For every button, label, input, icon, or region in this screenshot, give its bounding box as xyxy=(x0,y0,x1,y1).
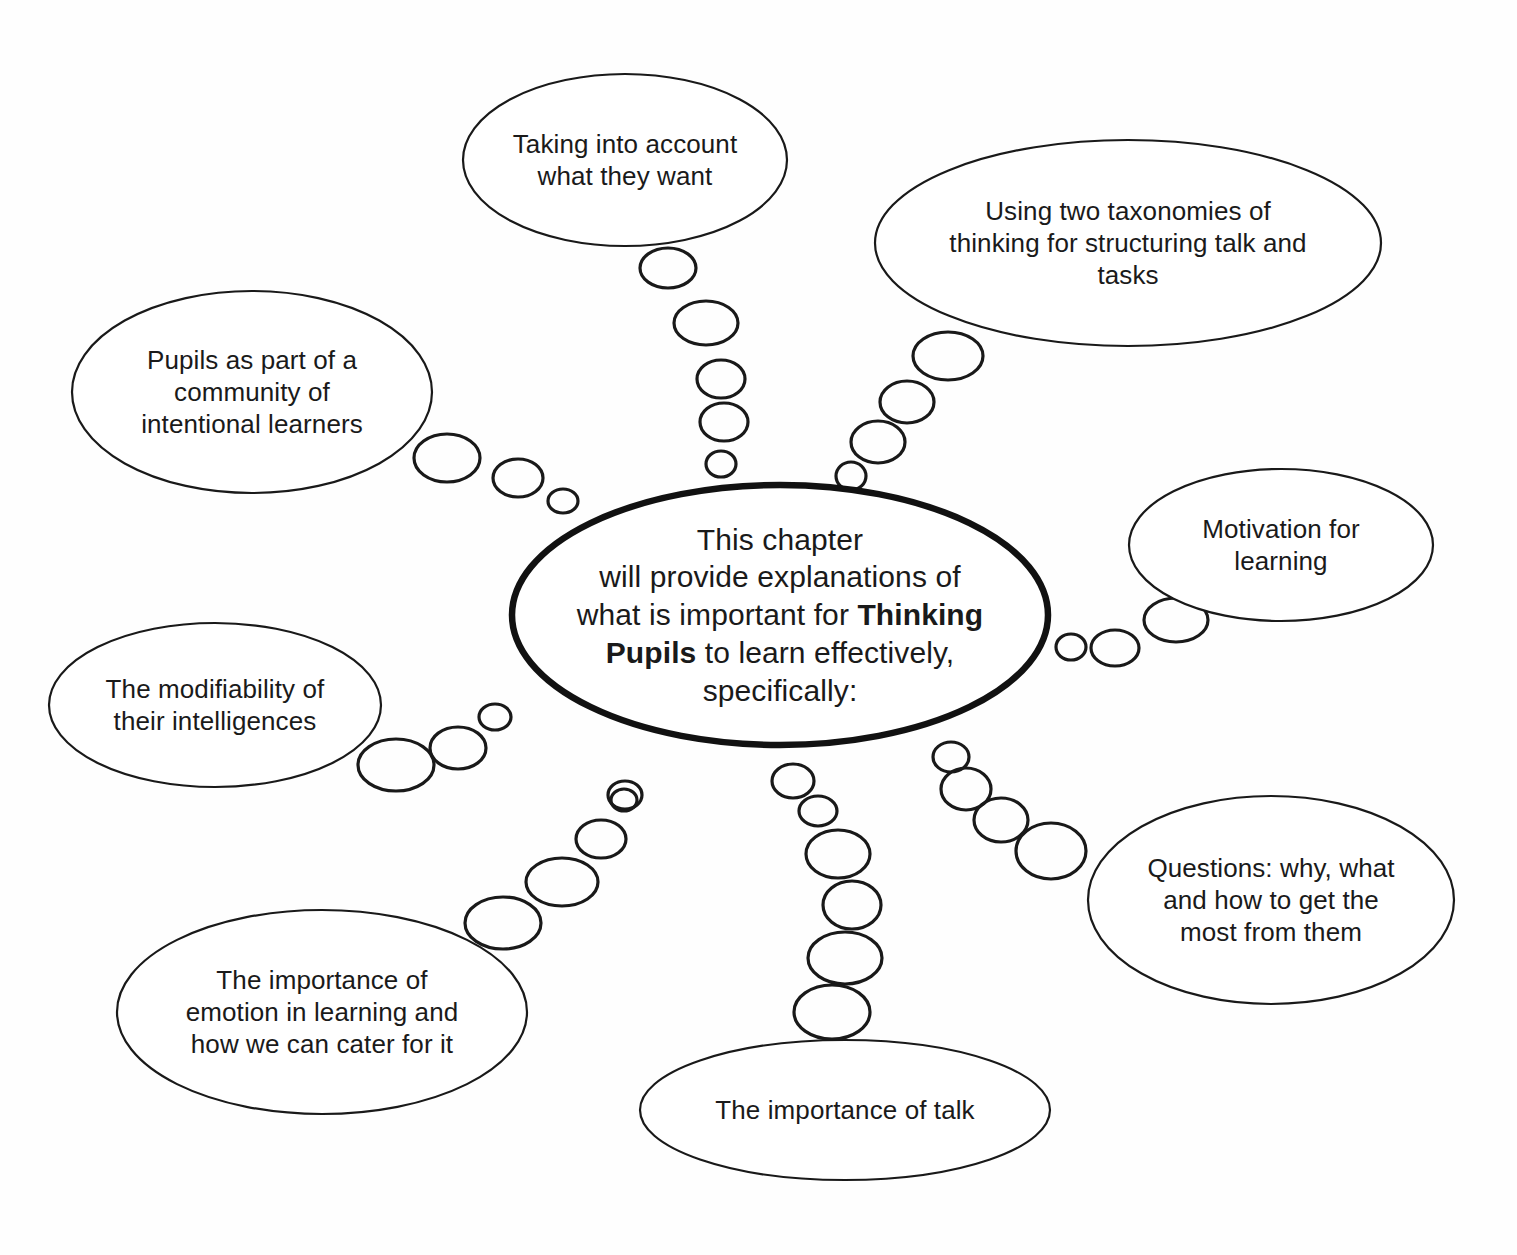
branch-label-community-of-learners: Pupils as part of acommunity ofintention… xyxy=(141,344,363,441)
trail-bubble-importance-of-talk-5 xyxy=(794,985,870,1039)
central-node[interactable]: This chapter will provide explanations o… xyxy=(534,495,1026,735)
trail-bubble-motivation-for-learning-1 xyxy=(1091,630,1139,666)
trail-bubble-modifiability-intelligences-1 xyxy=(430,727,486,769)
trail-bubble-motivation-for-learning-2 xyxy=(1056,634,1086,660)
branch-label-line: Taking into account xyxy=(513,129,738,159)
branch-label-modifiability-intelligences: The modifiability oftheir intelligences xyxy=(106,673,325,737)
branch-label-line: most from them xyxy=(1180,917,1362,947)
trail-bubble-taking-into-account-0 xyxy=(640,248,696,288)
branch-node-questions-why-what-how[interactable]: Questions: why, whatand how to get themo… xyxy=(1104,796,1438,1004)
branch-label-questions-why-what-how: Questions: why, whatand how to get themo… xyxy=(1147,852,1394,949)
central-line-2: will provide explanations of xyxy=(599,560,960,593)
branch-label-line: intentional learners xyxy=(141,409,363,439)
branch-label-line: Motivation for xyxy=(1202,514,1359,544)
branch-label-motivation-for-learning: Motivation forlearning xyxy=(1202,513,1359,577)
central-emphasis-thinking: Thinking xyxy=(857,598,983,631)
trail-bubble-importance-of-emotion-3 xyxy=(526,858,598,906)
branch-node-two-taxonomies[interactable]: Using two taxonomies ofthinking for stru… xyxy=(891,140,1365,346)
trail-bubble-importance-of-talk-0 xyxy=(772,764,814,798)
branch-label-line: how we can cater for it xyxy=(191,1029,453,1059)
trail-bubble-importance-of-talk-2 xyxy=(806,830,870,878)
branch-label-line: The modifiability of xyxy=(106,674,325,704)
trail-bubble-modifiability-intelligences-0 xyxy=(358,739,434,791)
branch-label-line: their intelligences xyxy=(114,706,317,736)
trail-bubble-taking-into-account-4 xyxy=(706,451,736,477)
trail-bubble-importance-of-talk-3 xyxy=(823,881,881,929)
trail-bubble-two-taxonomies-1 xyxy=(880,381,934,423)
branch-label-line: Pupils as part of a xyxy=(147,345,357,375)
branch-label-importance-of-emotion: The importance ofemotion in learning and… xyxy=(186,964,459,1061)
central-line-4b: to learn effectively, xyxy=(696,636,954,669)
trail-bubble-questions-why-what-how-3 xyxy=(1016,823,1086,879)
trail-bubble-importance-of-talk-1 xyxy=(799,796,837,826)
branch-label-line: The importance of talk xyxy=(715,1095,974,1125)
branch-label-line: community of xyxy=(174,377,330,407)
branch-node-modifiability-intelligences[interactable]: The modifiability oftheir intelligences xyxy=(65,623,365,787)
branch-node-importance-of-emotion[interactable]: The importance ofemotion in learning and… xyxy=(133,910,511,1114)
branch-node-motivation-for-learning[interactable]: Motivation forlearning xyxy=(1145,469,1417,621)
trail-bubble-two-taxonomies-2 xyxy=(851,421,905,463)
branch-label-line: learning xyxy=(1234,546,1327,576)
central-emphasis-pupils: Pupils xyxy=(606,636,697,669)
trail-bubble-taking-into-account-2 xyxy=(697,360,745,398)
branch-label-line: thinking for structuring talk and xyxy=(949,228,1306,258)
central-line-5: specifically: xyxy=(703,674,858,707)
trail-bubble-taking-into-account-3 xyxy=(700,403,748,441)
trail-bubble-importance-of-talk-4 xyxy=(808,932,882,984)
branch-node-importance-of-talk[interactable]: The importance of talk xyxy=(656,1040,1034,1180)
branch-label-two-taxonomies: Using two taxonomies ofthinking for stru… xyxy=(949,195,1306,292)
branch-label-importance-of-talk: The importance of talk xyxy=(715,1094,974,1126)
central-node-text: This chapter will provide explanations o… xyxy=(577,521,983,710)
branch-label-line: Questions: why, what xyxy=(1147,853,1394,883)
trail-bubble-taking-into-account-1 xyxy=(674,301,738,345)
branch-label-taking-into-account: Taking into accountwhat they want xyxy=(513,128,738,192)
trail-bubble-community-of-learners-1 xyxy=(493,459,543,497)
trail-bubble-importance-of-emotion-2 xyxy=(576,820,626,858)
branch-label-line: what they want xyxy=(538,161,713,191)
branch-node-taking-into-account[interactable]: Taking into accountwhat they want xyxy=(479,74,771,246)
branch-label-line: The importance of xyxy=(216,965,427,995)
branch-label-line: and how to get the xyxy=(1163,885,1379,915)
trail-bubble-community-of-learners-0 xyxy=(414,434,480,482)
trail-bubble-modifiability-intelligences-2 xyxy=(479,704,511,730)
branch-node-community-of-learners[interactable]: Pupils as part of acommunity ofintention… xyxy=(88,291,416,493)
branch-label-line: Using two taxonomies of xyxy=(985,196,1271,226)
branch-label-line: tasks xyxy=(1097,260,1158,290)
branch-label-line: emotion in learning and xyxy=(186,997,459,1027)
mindmap-canvas: This chapter will provide explanations o… xyxy=(0,0,1517,1255)
central-line-1: This chapter xyxy=(697,523,863,556)
central-line-3a: what is important for xyxy=(577,598,858,631)
